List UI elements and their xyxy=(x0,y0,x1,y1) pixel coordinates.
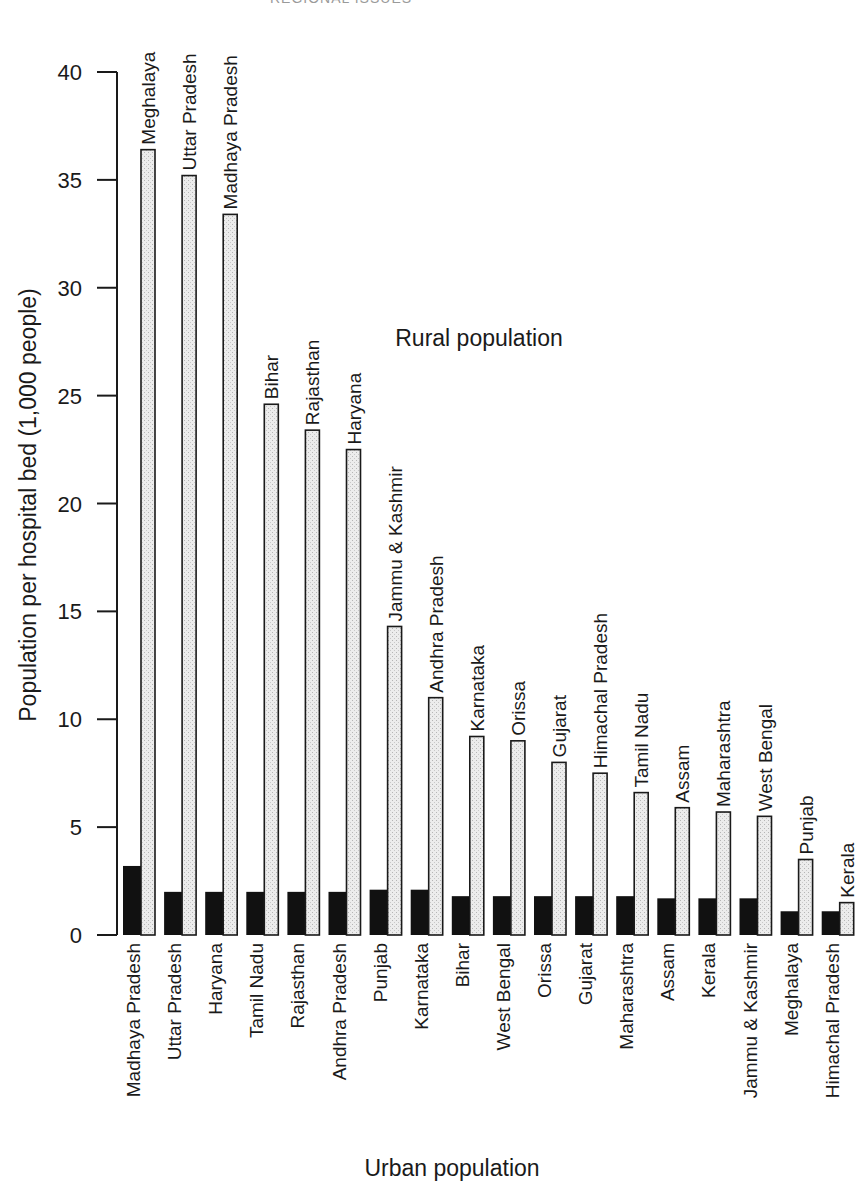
rural-category-label: Karnataka xyxy=(467,644,488,731)
urban-bar xyxy=(123,866,141,935)
rural-category-label: Tamil Nadu xyxy=(631,693,652,788)
y-axis: 0510152025303540 xyxy=(58,60,862,948)
rural-bar xyxy=(634,793,648,935)
rural-category-label: Haryana xyxy=(344,372,365,444)
urban-category-label: Assam xyxy=(657,943,678,1001)
urban-category-label: Himachal Pradesh xyxy=(822,943,843,1098)
urban-category-label: Madhaya Pradesh xyxy=(123,943,144,1097)
rural-category-label: West Bengal xyxy=(755,704,776,811)
urban-bar xyxy=(164,892,182,935)
rural-bar xyxy=(799,859,813,935)
rural-bar xyxy=(388,626,402,935)
urban-category-label: Andhra Pradesh xyxy=(329,943,350,1080)
rural-category-label: Andhra Pradesh xyxy=(426,555,447,692)
y-tick-label: 10 xyxy=(58,707,82,732)
y-tick-label: 15 xyxy=(58,599,82,624)
urban-category-label: Tamil Nadu xyxy=(246,943,267,1038)
y-tick-label: 30 xyxy=(58,276,82,301)
urban-bar xyxy=(452,896,470,935)
rural-category-label: Punjab xyxy=(796,795,817,854)
y-axis-title: Population per hospital bed (1,000 peopl… xyxy=(15,288,41,722)
urban-category-label: Haryana xyxy=(205,943,226,1015)
urban-bar xyxy=(205,892,223,935)
urban-bar xyxy=(740,898,758,935)
rural-category-label: Kerala xyxy=(837,842,858,897)
rural-bar xyxy=(470,737,484,935)
rural-bar xyxy=(182,176,196,935)
rural-category-label: Maharashtra xyxy=(713,700,734,807)
y-tick-label: 40 xyxy=(58,60,82,85)
urban-bar xyxy=(370,890,388,935)
urban-category-label: Orissa xyxy=(534,943,555,998)
rural-bar xyxy=(840,903,854,935)
urban-category-label: Karnataka xyxy=(411,943,432,1030)
urban-category-label: West Bengal xyxy=(493,943,514,1050)
rural-category-label: Assam xyxy=(672,745,693,803)
rural-bar xyxy=(141,150,155,935)
rural-bar xyxy=(593,773,607,935)
urban-bar xyxy=(287,892,305,935)
rural-bar xyxy=(264,404,278,935)
urban-category-label: Uttar Pradesh xyxy=(164,943,185,1060)
urban-bar xyxy=(329,892,347,935)
rural-bar xyxy=(511,741,525,935)
y-tick-label: 0 xyxy=(70,923,82,948)
rural-category-label: Gujarat xyxy=(549,694,570,757)
urban-category-label: Meghalaya xyxy=(781,943,802,1036)
bar-chart: 0510152025303540 Madhaya PradeshMeghalay… xyxy=(0,0,864,1189)
urban-bar xyxy=(698,898,716,935)
urban-bar xyxy=(575,896,593,935)
rural-bar xyxy=(716,812,730,935)
urban-category-label: Rajasthan xyxy=(287,943,308,1029)
urban-bar xyxy=(534,896,552,935)
x-axis-title: Urban population xyxy=(364,1155,539,1181)
urban-bar xyxy=(781,911,799,935)
rural-category-label: Bihar xyxy=(261,354,282,399)
urban-category-label: Bihar xyxy=(452,942,473,987)
urban-category-label: Maharashtra xyxy=(616,943,637,1050)
urban-category-label: Punjab xyxy=(370,943,391,1002)
rural-bar xyxy=(347,450,361,935)
urban-bar xyxy=(616,896,634,935)
urban-bar xyxy=(657,898,675,935)
rural-bar xyxy=(223,214,237,935)
y-tick-label: 20 xyxy=(58,492,82,517)
y-tick-label: 35 xyxy=(58,168,82,193)
y-tick-label: 25 xyxy=(58,384,82,409)
rural-category-label: Madhaya Pradesh xyxy=(220,55,241,209)
urban-bar xyxy=(493,896,511,935)
urban-category-label: Kerala xyxy=(698,943,719,998)
rural-bar xyxy=(305,430,319,935)
rural-population-annotation: Rural population xyxy=(395,325,563,351)
urban-bar xyxy=(822,911,840,935)
y-tick-label: 5 xyxy=(70,815,82,840)
rural-category-label: Meghalaya xyxy=(138,51,159,144)
urban-bar xyxy=(411,890,429,935)
urban-bar xyxy=(246,892,264,935)
bars-group xyxy=(123,150,854,935)
urban-category-label: Jammu & Kashmir xyxy=(740,942,761,1098)
rural-category-label: Himachal Pradesh xyxy=(590,613,611,768)
urban-category-label: Gujarat xyxy=(575,942,596,1005)
rural-category-label: Rajasthan xyxy=(302,340,323,426)
rural-bar xyxy=(675,808,689,935)
rural-category-label: Uttar Pradesh xyxy=(179,53,200,170)
rural-bar xyxy=(429,698,443,935)
rural-category-label: Jammu & Kashmir xyxy=(385,466,406,622)
rural-category-label: Orissa xyxy=(508,680,529,735)
rural-bar xyxy=(552,762,566,935)
rural-bar xyxy=(758,816,772,935)
